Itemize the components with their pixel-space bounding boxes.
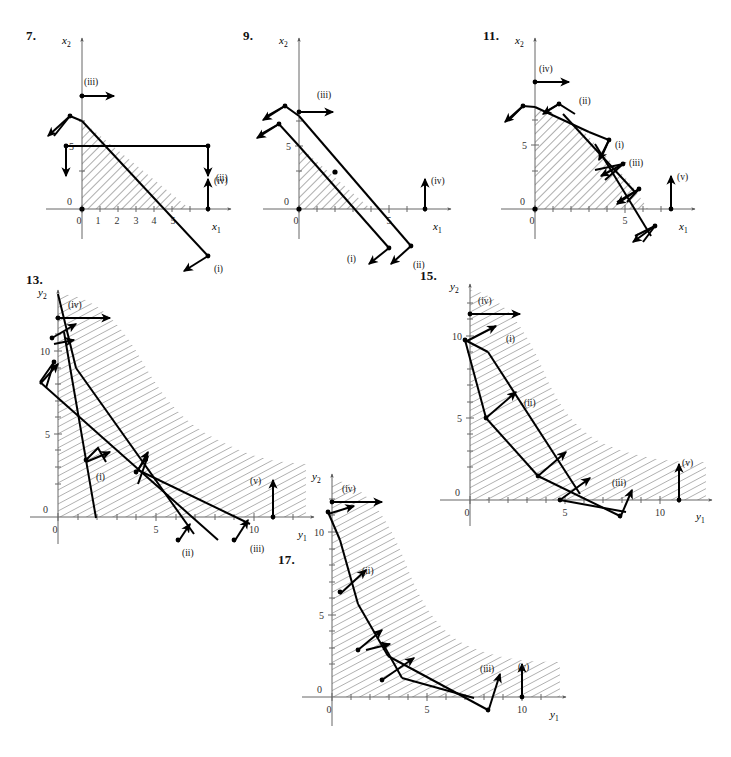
vector-origin-dot [206,254,211,259]
panel-11-number: 11. [483,28,499,44]
y-tick-label: 5 [522,140,527,151]
x-tick-label: 0 [77,215,82,226]
vector-origin-dot [80,94,85,99]
panel-17: 17. 0 5 10 0 5 10 [278,452,578,742]
x-tick-label: 0 [294,215,299,226]
y-axis-label: y2 [449,280,459,295]
vector-origin-dot [533,80,538,85]
vector-label-iv: (iv) [342,484,356,495]
vector-label-i: (i) [347,254,356,265]
vector-label-iii: (iii) [612,478,626,489]
x-tick-label: 0 [327,704,332,715]
panel-9: 9. 0 5 0 5 (i) (ii) (iii) [243,24,463,269]
x-axis-label: y1 [549,708,559,723]
vector-label-i: (i) [96,472,105,483]
origin-dot [79,206,84,211]
y-tick-label: 10 [452,331,462,342]
panel-11: 11. 0 5 0 5 (ii) (i) [483,24,708,269]
y-tick-label: 0 [520,196,525,207]
gradient-vector-upper-b [257,124,279,138]
x-tick-label: 0 [530,215,535,226]
vector-origin-dot [409,244,414,249]
vector-label-ii: (ii) [362,566,374,577]
vector-label-iv: (iv) [68,300,82,311]
gradient-vector-ii [178,524,190,542]
x-tick-label: 5 [425,704,430,715]
vector-origin-dot [520,695,525,700]
x-tick-label: 5 [154,524,159,535]
gradient-vector-iii [234,520,248,542]
panel-17-number: 17. [278,552,295,568]
gradient-vector-upper-a [263,106,285,120]
y-tick-label: 5 [286,141,291,152]
y-tick-label: 0 [317,684,322,695]
vector-label-v: (v) [250,476,261,487]
y-tick-label: 10 [40,346,50,357]
y-axis-label: x2 [61,34,71,49]
gradient-vector-upper [48,116,70,136]
vector-origin-dot [64,144,69,149]
panel-7: 7. 0 1 2 3 4 5 0 5 (i) [26,24,241,269]
y-axis-label: y2 [311,470,321,485]
vector-label-i: (i) [615,140,624,151]
vector-label-iii: (iii) [250,544,264,555]
x-tick-label: 2 [115,215,120,226]
panel-15-number: 15. [420,268,437,284]
x-tick-label: 5 [623,215,628,226]
gradient-vector-upper [505,106,523,122]
vector-origin-dot [50,336,55,341]
vector-label-ii: (ii) [579,96,591,107]
x-tick-label: 1 [96,215,101,226]
vector-label-i: (i) [506,334,515,345]
vector-label-iii: (iii) [317,90,331,101]
vector-origin-dot [330,500,335,505]
y-tick-label: 5 [457,413,462,424]
y-tick-label: 0 [67,196,72,207]
y-axis-label: x2 [514,34,524,49]
y-axis-label: y2 [37,286,47,301]
panel-11-plot: 0 5 0 5 (ii) (i) (iii) (iv) [483,24,708,269]
vector-label-iv: (iv) [539,64,553,75]
y-tick-label: 0 [43,504,48,515]
vector-origin-dot [206,144,211,149]
x-tick-label: 4 [152,215,157,226]
vector-label-iv: (iv) [431,176,445,187]
x-tick-label: 10 [249,524,259,535]
y-tick-label: 5 [319,610,324,621]
vector-label-v: (v) [518,662,529,673]
gradient-vector-ii [391,246,411,264]
feasible-region [299,146,371,209]
gradient-vector-i [369,248,389,264]
vector-origin-dot [423,207,428,212]
gradient-vector-i [184,256,208,271]
panel-7-number: 7. [26,28,36,44]
vector-origin-dot [468,312,473,317]
x-axis-label: x1 [432,220,442,235]
x-axis-label: y1 [695,510,705,525]
x-tick-label: 10 [655,507,665,518]
vector-label-ii: (ii) [182,548,194,559]
panel-13-number: 13. [26,272,43,288]
vector-origin-dot [271,515,276,520]
y-tick-label: 5 [45,429,50,440]
x-tick-label: 10 [517,704,527,715]
vector-origin-dot [387,246,392,251]
origin-dot [296,206,301,211]
panel-17-plot: 0 5 10 0 5 10 (iv) (ii) (iii) [278,452,578,742]
vector-origin-dot [669,207,674,212]
vector-label-iii: (iii) [84,77,98,88]
intersection-dot [332,169,337,174]
y-axis-label: x2 [278,34,288,49]
gradient-vector-ii [543,104,559,114]
vector-label-v: (v) [682,458,693,469]
vector-label-iii: (iii) [629,158,643,169]
vector-origin-dot [52,360,57,365]
panel-9-number: 9. [243,28,253,44]
vector-origin-dot [206,207,211,212]
vector-label-iv: (iv) [214,176,228,187]
vector-label-iv: (iv) [478,296,492,307]
panel-7-plot: 0 1 2 3 4 5 0 5 (i) (ii) (iii) (iv) [26,24,241,269]
x-axis-label: x1 [211,220,221,235]
panel-9-plot: 0 5 0 5 (i) (ii) (iii) (iv) x1 x2 [243,24,463,269]
x-axis-label: x1 [678,220,688,235]
